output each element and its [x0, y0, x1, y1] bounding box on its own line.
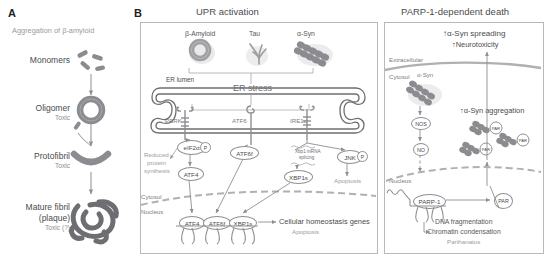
figure-root: A Aggregation of β-amyloid Monomers Olig… — [0, 0, 548, 260]
par-tagged-asyn-aggregates-icon: PAR PAR PAR — [458, 120, 529, 158]
parp-graphics: PAR PAR PAR — [0, 0, 548, 260]
alpha-syn-fibril-icon — [405, 79, 442, 106]
svg-text:PAR: PAR — [482, 147, 490, 152]
svg-text:PAR: PAR — [492, 126, 500, 131]
svg-text:PAR: PAR — [519, 138, 527, 143]
